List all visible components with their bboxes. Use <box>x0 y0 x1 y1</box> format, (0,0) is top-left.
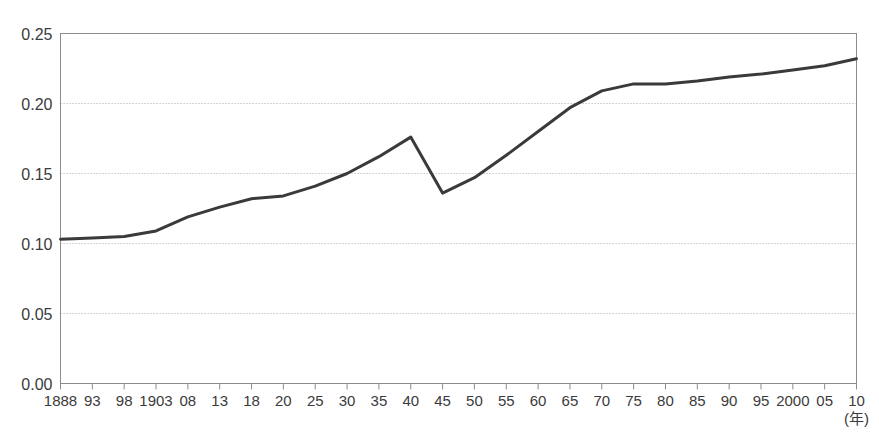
x-tick-label-08: 08 <box>180 392 197 409</box>
x-tick-label-10: 10 <box>848 392 865 409</box>
x-tick-label-2000: 2000 <box>776 392 809 409</box>
x-tick-label-50: 50 <box>466 392 483 409</box>
x-tick-label-45: 45 <box>434 392 451 409</box>
x-tick-label-75: 75 <box>625 392 642 409</box>
y-tick-label-0.20: 0.20 <box>21 96 52 113</box>
x-tick-label-98: 98 <box>116 392 133 409</box>
y-tick-label-0.05: 0.05 <box>21 306 52 323</box>
y-tick-label-0.15: 0.15 <box>21 166 52 183</box>
y-tick-label-0.25: 0.25 <box>21 26 52 43</box>
x-tick-label-55: 55 <box>498 392 515 409</box>
x-tick-label-30: 30 <box>339 392 356 409</box>
y-tick-label-0.00: 0.00 <box>21 376 52 393</box>
x-axis-unit-label: (年) <box>844 410 869 427</box>
x-tick-label-85: 85 <box>689 392 706 409</box>
x-tick-label-05: 05 <box>816 392 833 409</box>
y-tick-label-0.10: 0.10 <box>21 236 52 253</box>
x-axis-unit-text: (年) <box>844 410 869 427</box>
x-tick-label-13: 13 <box>211 392 228 409</box>
chart-figure: 0.000.050.100.150.200.25 188893981903081… <box>0 0 879 441</box>
x-tick-label-93: 93 <box>84 392 101 409</box>
x-tick-label-80: 80 <box>657 392 674 409</box>
x-tick-label-35: 35 <box>371 392 388 409</box>
x-tick-label-18: 18 <box>243 392 260 409</box>
x-tick-label-95: 95 <box>753 392 770 409</box>
x-tick-label-90: 90 <box>721 392 738 409</box>
x-tick-label-25: 25 <box>307 392 324 409</box>
x-tick-label-65: 65 <box>562 392 579 409</box>
x-tick-label-40: 40 <box>402 392 419 409</box>
chart-background <box>0 0 879 441</box>
x-tick-label-20: 20 <box>275 392 292 409</box>
line-chart: 0.000.050.100.150.200.25 188893981903081… <box>0 0 879 441</box>
x-tick-label-60: 60 <box>530 392 547 409</box>
x-tick-label-1888: 1888 <box>44 392 77 409</box>
x-tick-label-70: 70 <box>593 392 610 409</box>
x-tick-label-1903: 1903 <box>139 392 172 409</box>
